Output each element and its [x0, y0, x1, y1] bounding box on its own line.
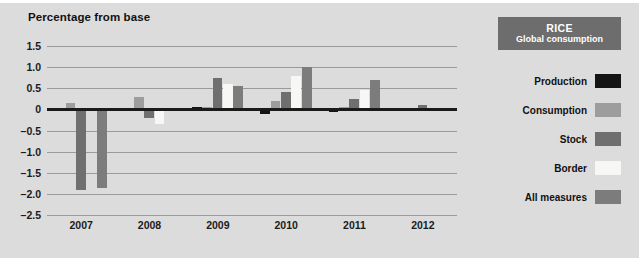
legend-label: Border	[554, 163, 587, 174]
legend-item-stock: Stock	[466, 127, 621, 151]
bar-stock-2010	[281, 92, 291, 109]
commodity-subtitle: Global consumption	[516, 34, 603, 45]
chart-legend: ProductionConsumptionStockBorderAll meas…	[466, 69, 621, 214]
legend-item-border: Border	[466, 156, 621, 180]
legend-label: All measures	[525, 192, 587, 203]
bar-group-2012	[389, 46, 457, 215]
bar-stock-2009	[213, 78, 223, 110]
legend-label: Production	[534, 76, 587, 87]
bar-border-2009	[223, 84, 233, 109]
x-axis-tick-label-2011: 2011	[343, 219, 366, 231]
bar-border-2011	[360, 90, 370, 109]
y-axis-tick-label: –1.0	[21, 146, 41, 158]
y-axis-tick-label: 1.0	[26, 61, 41, 73]
legend-swatch	[595, 161, 621, 175]
bar-group-2009	[184, 46, 252, 215]
legend-item-consumption: Consumption	[466, 98, 621, 122]
y-axis-title: Percentage from base	[28, 11, 150, 23]
legend-item-all-measures: All measures	[466, 185, 621, 209]
bar-border-2008	[155, 109, 165, 124]
y-axis-tick-label: –1.5	[21, 167, 41, 179]
plot-area	[47, 46, 457, 215]
legend-label: Consumption	[523, 105, 587, 116]
zero-axis-line	[47, 108, 457, 111]
y-axis-tick-label: 0	[35, 103, 41, 115]
bar-all-measures-2009	[233, 86, 243, 109]
bar-group-2007	[47, 46, 115, 215]
y-axis-tick-label: 0.5	[26, 82, 41, 94]
bar-group-2011	[320, 46, 388, 215]
bar-all-measures-2010	[302, 67, 312, 109]
y-axis-tick-label: –2.5	[21, 209, 41, 221]
legend-item-production: Production	[466, 69, 621, 93]
y-axis-tick-label: –2.0	[21, 188, 41, 200]
bar-stock-2007	[76, 109, 86, 189]
bar-group-2008	[115, 46, 183, 215]
y-axis-tick-label: –0.5	[21, 125, 41, 137]
commodity-header-badge: RICE Global consumption	[498, 17, 621, 50]
x-axis-tick-label-2010: 2010	[274, 219, 297, 231]
legend-swatch	[595, 74, 621, 88]
x-axis-tick-labels: 200720082009201020112012	[47, 219, 457, 237]
x-axis-tick-label-2009: 2009	[206, 219, 229, 231]
bar-all-measures-2007	[97, 109, 107, 187]
bar-group-2010	[252, 46, 320, 215]
x-axis-tick-label-2008: 2008	[138, 219, 161, 231]
x-axis-tick-label-2007: 2007	[69, 219, 92, 231]
gridline	[47, 215, 457, 216]
y-axis-tick-labels: 1.51.00.50–0.5–1.0–1.5–2.0–2.5	[8, 46, 41, 215]
x-axis-tick-label-2012: 2012	[411, 219, 434, 231]
commodity-name: RICE	[546, 22, 573, 34]
bar-all-measures-2011	[370, 80, 380, 110]
y-axis-tick-label: 1.5	[26, 40, 41, 52]
chart-figure: Percentage from base 1.51.00.50–0.5–1.0–…	[0, 0, 639, 262]
legend-swatch	[595, 190, 621, 204]
legend-swatch	[595, 132, 621, 146]
legend-label: Stock	[560, 134, 587, 145]
bar-border-2010	[291, 76, 301, 110]
legend-swatch	[595, 103, 621, 117]
